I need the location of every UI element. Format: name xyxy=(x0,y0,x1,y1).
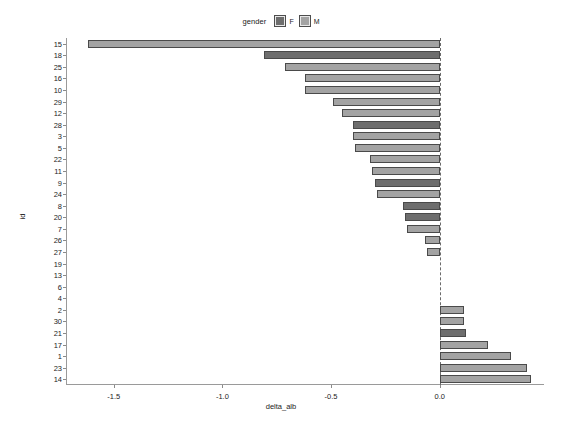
bar xyxy=(427,248,440,256)
y-tick-label: 6 xyxy=(44,282,62,291)
x-tick-mark xyxy=(331,385,332,388)
y-tick-label: 22 xyxy=(44,155,62,164)
y-tick-label: 19 xyxy=(44,259,62,268)
y-tick-label: 11 xyxy=(44,167,62,176)
y-tick-label: 23 xyxy=(44,363,62,372)
bar xyxy=(355,144,440,152)
bar xyxy=(372,167,439,175)
y-tick-label: 26 xyxy=(44,236,62,245)
y-tick-label: 4 xyxy=(44,294,62,303)
y-tick-label: 2 xyxy=(44,305,62,314)
y-tick-label: 13 xyxy=(44,271,62,280)
y-tick-label: 29 xyxy=(44,97,62,106)
y-tick-label: 28 xyxy=(44,120,62,129)
legend-label-f: F xyxy=(289,18,293,25)
y-tick-label: 1 xyxy=(44,352,62,361)
bar xyxy=(264,51,440,59)
bar xyxy=(425,236,440,244)
x-tick-mark xyxy=(114,385,115,388)
y-tick-label: 21 xyxy=(44,328,62,337)
y-tick-label: 9 xyxy=(44,178,62,187)
bar xyxy=(440,364,527,372)
legend-swatch-f xyxy=(274,15,286,27)
x-axis-title: delta_alb xyxy=(0,402,562,411)
y-tick-label: 16 xyxy=(44,74,62,83)
x-tick-label: -0.5 xyxy=(325,392,338,401)
legend-swatch-m xyxy=(299,15,311,27)
x-tick-mark xyxy=(440,385,441,388)
x-tick-label: 0.0 xyxy=(434,392,444,401)
legend-key-f: F xyxy=(274,15,293,27)
bar xyxy=(405,213,440,221)
y-tick-label: 7 xyxy=(44,224,62,233)
legend-title: gender xyxy=(242,17,266,26)
bar-chart: gender F M 15182516102912283522119248207… xyxy=(0,0,562,426)
bar xyxy=(285,63,439,71)
legend-label-m: M xyxy=(314,18,320,25)
y-tick-label: 3 xyxy=(44,132,62,141)
y-tick-label: 15 xyxy=(44,39,62,48)
legend: gender F M xyxy=(0,12,562,30)
bar xyxy=(440,341,488,349)
x-axis-line xyxy=(66,384,544,385)
x-tick-label: -1.5 xyxy=(107,392,120,401)
bar xyxy=(353,121,440,129)
y-tick-label: 18 xyxy=(44,51,62,60)
y-tick-label: 17 xyxy=(44,340,62,349)
bar xyxy=(353,132,440,140)
y-tick-label: 25 xyxy=(44,62,62,71)
bar xyxy=(403,202,440,210)
bar xyxy=(305,74,440,82)
bar xyxy=(88,40,440,48)
bar xyxy=(333,98,439,106)
y-tick-label: 10 xyxy=(44,86,62,95)
bar xyxy=(440,352,512,360)
y-tick-label: 27 xyxy=(44,247,62,256)
y-axis-line xyxy=(66,38,67,385)
y-tick-label: 20 xyxy=(44,213,62,222)
y-axis-title: id xyxy=(18,214,27,220)
legend-key-m: M xyxy=(299,15,320,27)
y-tick-label: 24 xyxy=(44,190,62,199)
bar xyxy=(440,317,464,325)
x-tick-mark xyxy=(222,385,223,388)
y-tick-label: 12 xyxy=(44,109,62,118)
bar xyxy=(440,329,466,337)
y-tick-label: 14 xyxy=(44,375,62,384)
bar xyxy=(377,190,440,198)
y-tick-label: 8 xyxy=(44,201,62,210)
x-tick-label: -1.0 xyxy=(216,392,229,401)
plot-panel xyxy=(66,38,544,385)
y-tick-label: 5 xyxy=(44,143,62,152)
bar xyxy=(407,225,440,233)
bar xyxy=(305,86,440,94)
bar xyxy=(342,109,440,117)
bar xyxy=(440,375,531,383)
bar xyxy=(375,179,440,187)
bar xyxy=(440,306,464,314)
bar xyxy=(370,155,440,163)
y-tick-label: 30 xyxy=(44,317,62,326)
